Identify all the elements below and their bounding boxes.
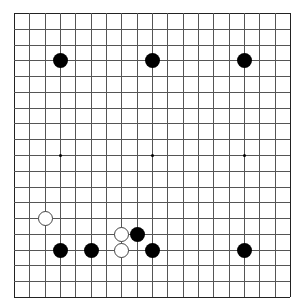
go-board[interactable] bbox=[14, 13, 290, 297]
grid-line-vertical bbox=[183, 13, 184, 297]
grid-line-vertical bbox=[167, 13, 168, 297]
white-stone[interactable] bbox=[114, 227, 129, 242]
grid-line-horizontal bbox=[14, 187, 290, 188]
star-point bbox=[59, 154, 62, 157]
white-stone[interactable] bbox=[38, 211, 53, 226]
grid-line-horizontal bbox=[14, 281, 290, 282]
white-stone[interactable] bbox=[114, 243, 129, 258]
black-stone[interactable] bbox=[53, 243, 68, 258]
grid-line-vertical bbox=[275, 13, 276, 297]
grid-line-horizontal bbox=[14, 297, 290, 298]
grid-line-vertical bbox=[290, 13, 291, 297]
grid-line-vertical bbox=[229, 13, 230, 297]
star-point bbox=[243, 154, 246, 157]
grid-line-horizontal bbox=[14, 265, 290, 266]
black-stone[interactable] bbox=[53, 53, 68, 68]
grid-line-horizontal bbox=[14, 234, 290, 235]
black-stone[interactable] bbox=[130, 227, 145, 242]
grid-line-horizontal bbox=[14, 202, 290, 203]
grid-line-vertical bbox=[259, 13, 260, 297]
grid-line-vertical bbox=[198, 13, 199, 297]
star-point bbox=[151, 154, 154, 157]
black-stone[interactable] bbox=[145, 53, 160, 68]
grid-line-horizontal bbox=[14, 171, 290, 172]
black-stone[interactable] bbox=[145, 243, 160, 258]
black-stone[interactable] bbox=[237, 243, 252, 258]
black-stone[interactable] bbox=[84, 243, 99, 258]
grid-line-vertical bbox=[213, 13, 214, 297]
black-stone[interactable] bbox=[237, 53, 252, 68]
grid-line-horizontal bbox=[14, 218, 290, 219]
